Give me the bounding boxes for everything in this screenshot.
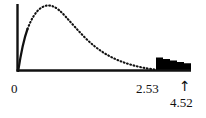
up-arrow-icon: ↑	[179, 79, 191, 93]
x-axis-label-origin: 0	[11, 82, 18, 95]
x-axis-label-critical-value: 2.53	[136, 82, 159, 95]
x-axis-label-test-statistic: 4.52	[170, 96, 193, 109]
